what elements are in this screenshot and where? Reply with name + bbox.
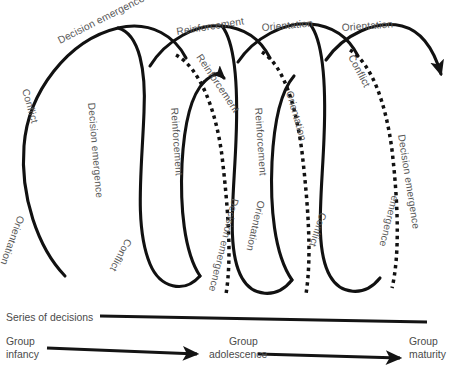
series-of-decisions-line — [100, 316, 427, 322]
loop3-bottom-curve — [310, 24, 380, 291]
series-of-decisions-label: Series of decisions — [6, 312, 93, 323]
lower-label-3: Orientation — [244, 200, 266, 253]
spiral-diagram-svg: Decision emergence Reinforcement Orienta… — [0, 0, 457, 374]
lower-label-group: Orientation Conflict Decision emergence … — [0, 195, 401, 294]
diagram-canvas: Decision emergence Reinforcement Orienta… — [0, 0, 457, 374]
stage-maturity-line1: Group — [409, 336, 438, 347]
stage-adolescence-line1: Group — [229, 336, 258, 347]
top-label-2: Orientation — [261, 18, 313, 33]
loop4-back-curve — [350, 50, 397, 288]
front-label-2: Reinforcement — [169, 107, 185, 176]
lower-label-0: Orientation — [0, 214, 26, 266]
back-label-1: Orientation — [284, 90, 309, 143]
back-label-2: Conflict — [346, 53, 372, 89]
timeline-stage-adolescence: Group adolescence — [209, 336, 268, 360]
back-label-3: Decision emergence — [396, 134, 422, 230]
top-label-3: Orientation — [341, 18, 393, 33]
front-label-1: Decision emergence — [86, 102, 105, 198]
top-label-1: Reinforcement — [176, 15, 245, 37]
series-of-decisions-axis: Series of decisions — [6, 312, 427, 323]
lower-label-4: Conflict — [307, 211, 328, 248]
stage-adolescence-line2: adolescence — [209, 349, 268, 360]
timeline-stage-maturity: Group maturity — [409, 336, 447, 360]
timeline-arrow-1 — [47, 348, 197, 354]
timeline-stage-infancy: Group infancy — [6, 336, 40, 360]
timeline: Group infancy Group adolescence Group ma… — [6, 336, 447, 360]
stage-infancy-line2: infancy — [6, 349, 40, 360]
front-label-3: Reinforcement — [253, 107, 269, 176]
stage-infancy-line1: Group — [6, 336, 35, 347]
lower-label-2: Decision emergence — [207, 198, 241, 294]
top-label-group: Decision emergence Reinforcement Orienta… — [56, 0, 394, 46]
loop1-front-curve — [23, 26, 186, 276]
timeline-arrow-2 — [258, 354, 400, 358]
stage-maturity-line2: maturity — [409, 349, 447, 360]
front-label-0: Conflict — [20, 88, 40, 125]
spiral-loop-4 — [326, 25, 441, 288]
lower-label-1: Conflict — [108, 237, 134, 273]
loop2-front-curve — [182, 82, 204, 276]
